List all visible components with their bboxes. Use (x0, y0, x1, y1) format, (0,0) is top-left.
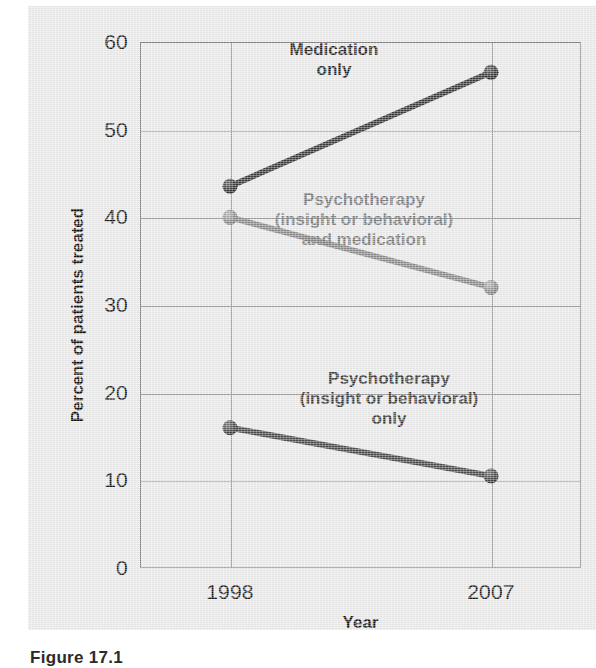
series-psychotherapy-only (223, 420, 499, 483)
figure-panel: 60 50 40 30 20 10 0 Percent of patients … (28, 6, 596, 630)
series-label-psychotherapy-only: Psychotherapy (insight or behavioral) on… (282, 369, 496, 429)
x-tick-2007: 2007 (467, 580, 515, 604)
series-label-medication-only: Medication only (242, 40, 426, 80)
x-axis-title: Year (140, 613, 581, 633)
x-tick-1998: 1998 (206, 580, 254, 604)
chart-series-layer (28, 6, 596, 630)
series-label-psychotherapy-and-medication: Psychotherapy (insight or behavioral) an… (250, 190, 478, 250)
series-medication-only (223, 65, 499, 194)
figure-caption: Figure 17.1 (30, 648, 123, 668)
